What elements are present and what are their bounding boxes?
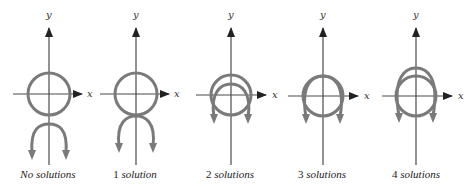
parabola-arrow-left [28,150,36,160]
panel-2-solutions: y x 2 solutions [196,9,278,180]
panel-no-solutions: y x No solutions [13,9,93,180]
y-axis-label: y [319,9,326,20]
panel-3-solutions: y x 3 solutions [288,9,370,180]
parabola-arrow-left [210,114,218,124]
caption-no-solutions: No solutions [19,168,75,180]
y-axis-label: y [132,9,139,20]
panel-1-solution: y x 1 solution [100,9,180,180]
y-axis-label: y [45,9,52,20]
parabola-arrow-right [336,114,344,124]
parabola-arrow-right [244,114,252,124]
parabola-arrow-right [62,150,70,160]
x-axis-label: x [364,90,370,101]
parabola-arrow-left [302,114,310,124]
y-axis-label: y [227,9,234,20]
x-axis-label: x [458,90,464,101]
y-axis-label: y [412,9,419,20]
parabola-arrow-left [395,113,403,123]
parabola-arrow-left [115,143,123,153]
parabola-arrow-right [149,143,157,153]
caption-1-solution: 1 solution [113,168,157,180]
x-axis-label: x [272,89,278,100]
caption-3-solutions: 3 solutions [298,168,346,180]
x-axis-label: x [87,88,93,99]
caption-4-solutions: 4 solutions [392,168,440,180]
x-axis-label: x [174,88,180,99]
circle-parabola-intersection-diagram: y x No solutions y x 1 solution y x [0,0,475,187]
parabola-arrow-right [429,113,437,123]
panel-4-solutions: y x 4 solutions [382,9,464,180]
caption-2-solutions: 2 solutions [206,168,254,180]
